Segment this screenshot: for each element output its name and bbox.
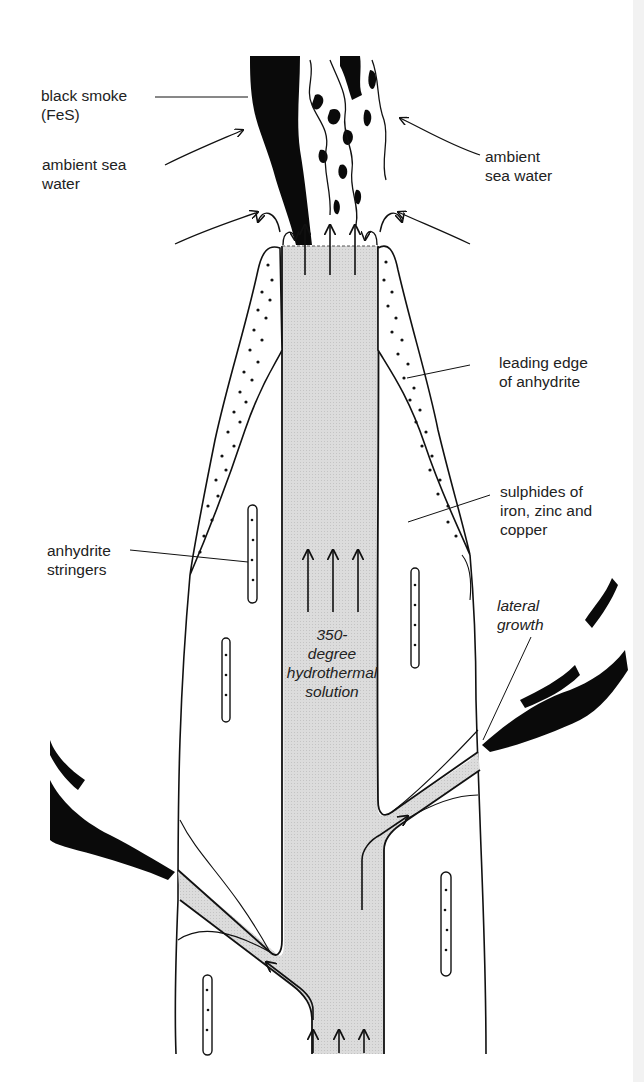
left-anhydrite-lens	[190, 247, 282, 575]
right-anhydrite-lens	[378, 246, 470, 555]
label-anhydrite-stringers: anhydrite stringers	[47, 541, 111, 579]
label-leading-edge-anhydrite: leading edge of anhydrite	[499, 353, 588, 391]
label-ambient-sea-water-left: ambient sea water	[42, 155, 126, 193]
label-lateral-growth: lateral growth	[497, 596, 544, 634]
hydrothermal-vent-diagram: black smoke (FeS) ambient sea water ambi…	[0, 0, 644, 1082]
lateral-smoke-left	[50, 740, 175, 880]
label-black-smoke: black smoke (FeS)	[41, 86, 127, 124]
label-ambient-sea-water-right: ambient sea water	[485, 147, 552, 185]
label-sulphides: sulphides of iron, zinc and copper	[500, 482, 592, 539]
label-hydrothermal-solution: 350- degree hydrothermal solution	[272, 625, 392, 701]
ambient-water-arrows	[165, 118, 480, 244]
